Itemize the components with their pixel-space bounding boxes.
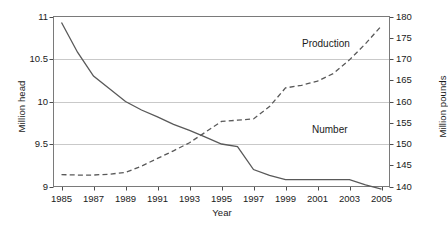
y-axis-left-tick-label: 9 [14, 181, 48, 192]
y-axis-right-tick-label: 175 [396, 32, 430, 43]
y-axis-left-title: Million head [16, 67, 27, 147]
y-axis-right-tick-label: 165 [396, 74, 430, 85]
y-axis-right-tick-label: 170 [396, 53, 430, 64]
series-label-production: Production [302, 38, 350, 49]
y-axis-right-tick-label: 160 [396, 96, 430, 107]
y-axis-right-tick-label: 140 [396, 181, 430, 192]
series-label-number: Number [312, 124, 348, 135]
y-axis-right-tick-label: 155 [396, 117, 430, 128]
y-axis-left-tick-label: 10.5 [14, 53, 48, 64]
y-axis-right-tick-label: 180 [396, 11, 430, 22]
y-axis-left-tick-label: 10 [14, 96, 48, 107]
y-axis-right-title: Million pounds [437, 67, 448, 147]
x-axis-title: Year [0, 207, 444, 218]
y-axis-left-tick-label: 9.5 [14, 138, 48, 149]
y-axis-right-tick-label: 145 [396, 159, 430, 170]
y-axis-left-tick-label: 11 [14, 11, 48, 22]
y-axis-right-tick-label: 150 [396, 138, 430, 149]
x-axis-tick-label: 2005 [362, 193, 402, 204]
